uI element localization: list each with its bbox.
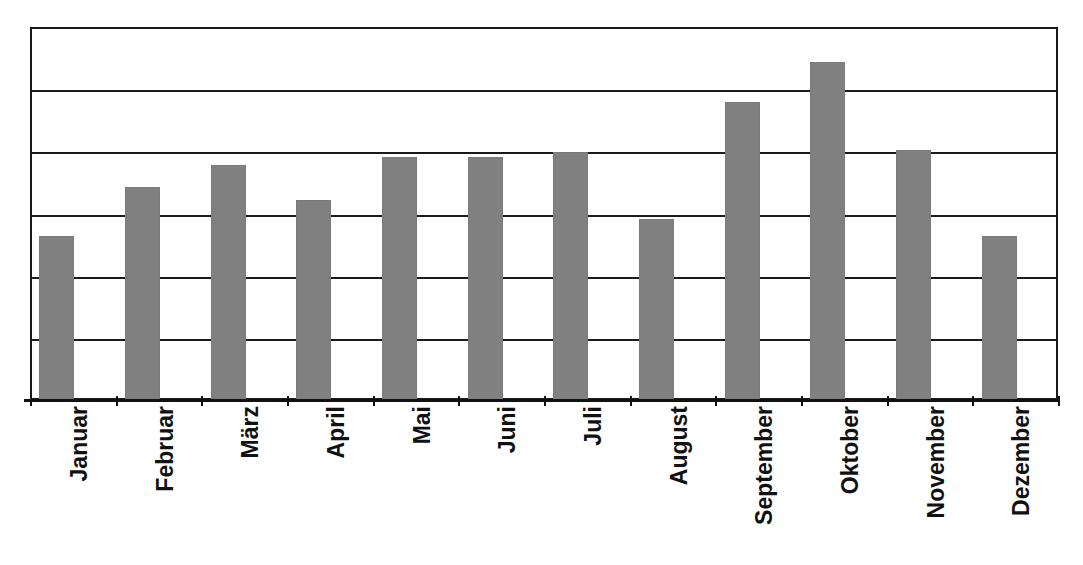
- x-axis-tick: [201, 396, 203, 406]
- bar: [211, 165, 246, 400]
- bar: [125, 187, 160, 400]
- x-axis-tick: [287, 396, 289, 406]
- x-axis-label: September: [751, 406, 778, 556]
- bar: [39, 236, 74, 400]
- x-axis-label: Januar: [66, 406, 93, 556]
- bar: [553, 152, 588, 400]
- x-axis-tick: [715, 396, 717, 406]
- bar: [725, 102, 760, 400]
- x-axis-tick: [30, 396, 32, 406]
- x-axis-tick: [373, 396, 375, 406]
- x-axis-label: April: [323, 406, 350, 556]
- x-axis-label: Dezember: [1008, 406, 1035, 556]
- x-axis-tick: [1058, 396, 1060, 406]
- x-axis-label: Oktober: [837, 406, 864, 556]
- x-axis-labels: JanuarFebruarMärzAprilMaiJuniJuliAugustS…: [30, 406, 1058, 565]
- x-axis-tick: [630, 396, 632, 406]
- bar: [639, 219, 674, 400]
- x-axis-tick: [116, 396, 118, 406]
- x-axis-label: März: [237, 406, 264, 556]
- bar: [896, 150, 931, 400]
- bar: [468, 157, 503, 400]
- bars-group: [30, 27, 1058, 400]
- x-axis-tick: [801, 396, 803, 406]
- x-axis-tick: [544, 396, 546, 406]
- x-axis-label: Februar: [152, 406, 179, 556]
- bar: [982, 236, 1017, 400]
- x-axis-label: Juni: [494, 406, 521, 556]
- x-axis-label: Juli: [580, 406, 607, 556]
- x-axis-label: August: [666, 406, 693, 556]
- bar: [810, 62, 845, 400]
- x-axis-label: Mai: [409, 406, 436, 556]
- x-axis-line: [24, 399, 1060, 402]
- bar-chart: JanuarFebruarMärzAprilMaiJuniJuliAugustS…: [0, 0, 1083, 565]
- x-axis-tick: [887, 396, 889, 406]
- x-axis-tick: [972, 396, 974, 406]
- bar: [382, 157, 417, 400]
- x-axis-label: November: [923, 406, 950, 556]
- x-axis-tick: [458, 396, 460, 406]
- bar: [296, 200, 331, 400]
